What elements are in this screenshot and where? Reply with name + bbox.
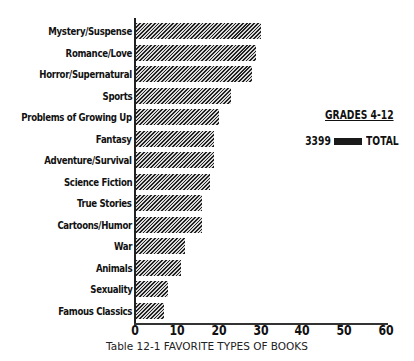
bar: [136, 23, 261, 39]
chart-caption: Table 12-1 FAVORITE TYPES OF BOOKS: [0, 340, 414, 352]
x-tick-label: 10: [165, 322, 188, 338]
category-label: Sports: [102, 88, 132, 104]
bar: [136, 281, 168, 297]
category-label: Mystery/Suspense: [48, 23, 132, 39]
x-tick-label: 40: [291, 322, 314, 338]
category-label: Romance/Love: [66, 45, 132, 61]
bar: [136, 152, 214, 168]
bar: [136, 174, 210, 190]
bar: [136, 217, 202, 233]
bar: [136, 195, 202, 211]
category-label: Science Fiction: [64, 174, 132, 190]
x-tick-label: 20: [207, 322, 230, 338]
x-tick-label: 60: [374, 322, 397, 338]
legend-swatch: [334, 138, 362, 145]
legend-count: 3399: [305, 134, 331, 148]
x-tick-label: 0: [123, 322, 146, 338]
category-label: Adventure/Survival: [45, 152, 132, 168]
bar: [136, 131, 214, 147]
bar: [136, 238, 185, 254]
category-label: Cartoons/Humor: [57, 217, 132, 233]
bar: [136, 109, 219, 125]
legend-label: TOTAL: [366, 134, 399, 148]
y-axis: [134, 18, 136, 325]
category-label: Famous Classics: [58, 303, 132, 319]
legend-title: GRADES 4-12: [325, 108, 394, 122]
legend-entry: 3399 TOTAL: [302, 134, 403, 148]
category-label: Problems of Growing Up: [21, 109, 132, 125]
category-label: Horror/Supernatural: [40, 66, 132, 82]
bar: [136, 88, 231, 104]
bar: [136, 260, 181, 276]
category-label: Sexuality: [90, 281, 132, 297]
category-label: True Stories: [77, 195, 132, 211]
category-label: Fantasy: [96, 131, 132, 147]
bar: [136, 303, 164, 319]
category-label: Animals: [96, 260, 132, 276]
bar: [136, 45, 256, 61]
bar: [136, 66, 252, 82]
bar-chart: Mystery/SuspenseRomance/LoveHorror/Super…: [0, 0, 414, 361]
x-tick-label: 30: [249, 322, 272, 338]
x-tick-label: 50: [332, 322, 355, 338]
category-label: War: [114, 238, 132, 254]
